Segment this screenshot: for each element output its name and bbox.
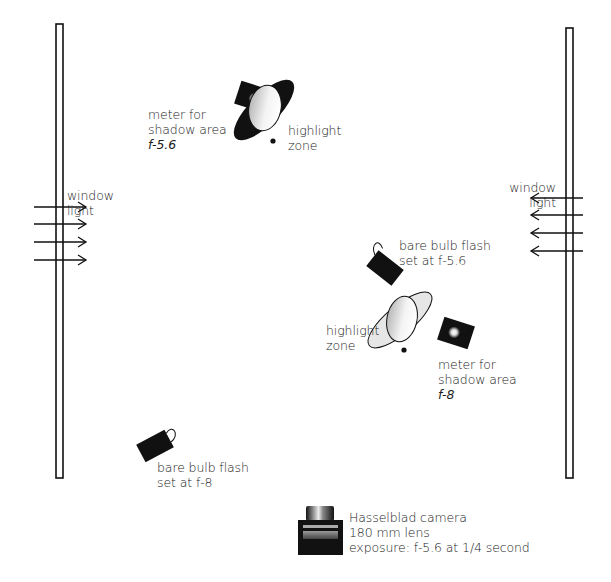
- label-line: light: [500, 195, 556, 210]
- label-line: Hasselblad camera: [349, 510, 530, 525]
- label-line: meter for: [148, 107, 227, 122]
- label-line: bare bulb flash: [157, 460, 249, 475]
- label-line: 180 mm lens: [349, 525, 530, 540]
- camera-icon: [298, 506, 343, 555]
- right-window-label: window light: [500, 180, 556, 210]
- label-line: shadow area: [438, 372, 517, 387]
- top-highlight-label: highlight zone: [288, 123, 341, 153]
- label-line: highlight: [326, 323, 379, 338]
- label-line: window: [67, 188, 114, 203]
- label-line: highlight: [288, 123, 341, 138]
- right-meter-icon: [437, 317, 475, 350]
- right-meter-label: meter for shadow area f-8: [438, 357, 517, 402]
- label-line: window: [500, 180, 556, 195]
- label-line: light: [67, 203, 114, 218]
- lighting-diagram: [0, 0, 611, 582]
- right-window: [566, 28, 573, 478]
- label-line: set at f-8: [157, 475, 249, 490]
- label-line: zone: [326, 338, 379, 353]
- label-line: set at f-5.6: [399, 253, 491, 268]
- left-window: [56, 24, 63, 478]
- left-window-label: window light: [67, 188, 114, 218]
- bottom-flash-label: bare bulb flash set at f-8: [157, 460, 249, 490]
- label-line: exposure: f-5.6 at 1/4 second: [349, 540, 530, 555]
- camera-label: Hasselblad camera 180 mm lens exposure: …: [349, 510, 530, 555]
- right-flash-label: bare bulb flash set at f-5.6: [399, 238, 491, 268]
- label-line: zone: [288, 138, 341, 153]
- label-line: shadow area: [148, 122, 227, 137]
- right-highlight-label: highlight zone: [326, 323, 379, 353]
- fstop-value: f-8: [438, 387, 517, 402]
- label-line: bare bulb flash: [399, 238, 491, 253]
- bottom-flash-icon: [136, 426, 181, 463]
- label-line: meter for: [438, 357, 517, 372]
- fstop-value: f-5.6: [148, 137, 227, 152]
- top-meter-label: meter for shadow area f-5.6: [148, 107, 227, 152]
